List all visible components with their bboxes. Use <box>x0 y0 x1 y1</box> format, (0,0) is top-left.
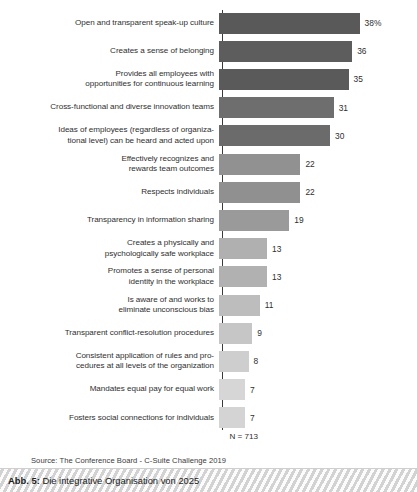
bar-chart: Open and transparent speak-up culture38%… <box>0 0 417 430</box>
bar-category-label: Promotes a sense of personal identity in… <box>0 266 218 287</box>
bar <box>219 69 349 90</box>
bar <box>219 125 330 146</box>
bar <box>219 182 300 203</box>
bar-value-label: 9 <box>257 328 262 338</box>
bar-category-label: Transparency in information sharing <box>0 215 218 225</box>
bar-row: Respects individuals22 <box>0 182 417 203</box>
bar-category-label: Provides all employees with opportunitie… <box>0 69 218 90</box>
bar <box>219 41 352 62</box>
bar-track: 7 <box>218 379 417 400</box>
bar-row: Effectively recognizes and rewards team … <box>0 154 417 175</box>
bar-value-label: 8 <box>254 356 259 366</box>
bar <box>219 154 300 175</box>
bar-track: 36 <box>218 41 417 62</box>
bar-row: Provides all employees with opportunitie… <box>0 69 417 90</box>
bar-value-label: 22 <box>305 187 314 197</box>
bar-value-label: 38% <box>365 18 382 28</box>
source-note: Source: The Conference Board - C-Suite C… <box>31 456 226 465</box>
bar <box>219 351 249 372</box>
figure-caption-label: Abb. 5: <box>8 475 40 486</box>
bar-row: Promotes a sense of personal identity in… <box>0 266 417 287</box>
bar-category-label: Fosters social connections for individua… <box>0 413 218 423</box>
bar-value-label: 13 <box>272 244 281 254</box>
bar-row: Consistent application of rules and pro-… <box>0 351 417 372</box>
figure-caption: Abb. 5: Die integrative Organisation von… <box>0 475 199 486</box>
figure-caption-title: Die integrative Organisation von 2025 <box>42 475 199 486</box>
bar-track: 19 <box>218 210 417 231</box>
bar-value-label: 30 <box>335 131 344 141</box>
bar-row: Transparency in information sharing19 <box>0 210 417 231</box>
bar <box>219 210 289 231</box>
bar-row: Creates a sense of belonging36 <box>0 41 417 62</box>
bar-track: 9 <box>218 323 417 344</box>
bar-track: 22 <box>218 182 417 203</box>
bar-track: 35 <box>218 69 417 90</box>
bar-row: Creates a physically and psychologically… <box>0 238 417 259</box>
bar <box>219 266 267 287</box>
bar-category-label: Transparent conflict-resolution procedur… <box>0 328 218 338</box>
caption-band: Abb. 5: Die integrative Organisation von… <box>0 468 417 492</box>
bar-track: 13 <box>218 266 417 287</box>
bar-track: 7 <box>218 407 417 428</box>
bar-track: 22 <box>218 154 417 175</box>
bar <box>219 379 245 400</box>
bar <box>219 295 260 316</box>
sample-size-note: N = 713 <box>0 432 258 441</box>
bar-category-label: Creates a sense of belonging <box>0 46 218 56</box>
bar-value-label: 22 <box>305 159 314 169</box>
bar-track: 13 <box>218 238 417 259</box>
bar-track: 8 <box>218 351 417 372</box>
bar-value-label: 7 <box>250 413 255 423</box>
bar-row: Fosters social connections for individua… <box>0 407 417 428</box>
bar-category-label: Respects individuals <box>0 187 218 197</box>
bar <box>219 323 252 344</box>
bar-category-label: Ideas of employees (regardless of organi… <box>0 125 218 146</box>
bar-row: Cross-functional and diverse innovation … <box>0 97 417 118</box>
bar-row: Open and transparent speak-up culture38% <box>0 13 417 34</box>
bar-row: Transparent conflict-resolution procedur… <box>0 323 417 344</box>
bar-category-label: Mandates equal pay for equal work <box>0 384 218 394</box>
bar <box>219 407 245 428</box>
bar <box>219 13 360 34</box>
bar-value-label: 11 <box>265 300 274 310</box>
bar-category-label: Is aware of and works to eliminate uncon… <box>0 295 218 316</box>
bar-track: 38% <box>218 13 417 34</box>
figure-container: Open and transparent speak-up culture38%… <box>0 0 417 492</box>
bar-category-label: Effectively recognizes and rewards team … <box>0 154 218 175</box>
bar-value-label: 36 <box>357 46 366 56</box>
bar-track: 11 <box>218 295 417 316</box>
bar-value-label: 19 <box>294 215 303 225</box>
bar-value-label: 35 <box>354 74 363 84</box>
bar-value-label: 7 <box>250 385 255 395</box>
bar-category-label: Cross-functional and diverse innovation … <box>0 102 218 112</box>
bar-value-label: 31 <box>339 103 348 113</box>
bar-row: Ideas of employees (regardless of organi… <box>0 125 417 146</box>
bar-track: 30 <box>218 125 417 146</box>
bar <box>219 238 267 259</box>
bar-value-label: 13 <box>272 272 281 282</box>
bar-row: Is aware of and works to eliminate uncon… <box>0 295 417 316</box>
bar-row: Mandates equal pay for equal work7 <box>0 379 417 400</box>
bar-category-label: Consistent application of rules and pro-… <box>0 351 218 372</box>
bar <box>219 97 334 118</box>
bar-category-label: Creates a physically and psychologically… <box>0 238 218 259</box>
bar-track: 31 <box>218 97 417 118</box>
bar-category-label: Open and transparent speak-up culture <box>0 18 218 28</box>
